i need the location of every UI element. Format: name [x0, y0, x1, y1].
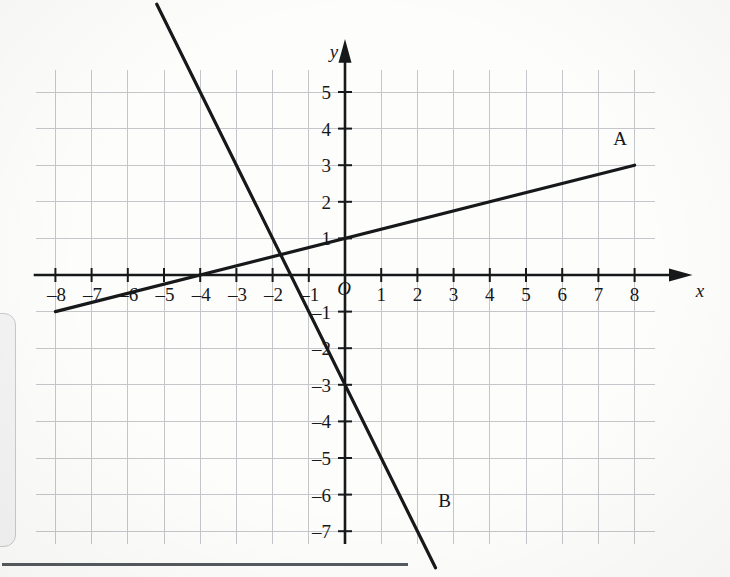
y-tick-label: –7: [311, 521, 331, 542]
x-tick-label: 3: [449, 284, 459, 305]
x-tick-label: 6: [557, 284, 567, 305]
cropped-ui-panel[interactable]: [0, 313, 16, 547]
x-tick-label: 2: [413, 284, 423, 305]
origin-label: O: [337, 278, 351, 299]
x-tick-label: –8: [46, 284, 66, 305]
graph-page: –8–7–6–5–4–3–2–112345678 54321–1–2–3–4–5…: [0, 0, 730, 577]
x-axis-label: x: [695, 280, 705, 301]
x-tick-label: 5: [521, 284, 531, 305]
coordinate-graph: –8–7–6–5–4–3–2–112345678 54321–1–2–3–4–5…: [0, 0, 730, 577]
y-tick-label: 4: [322, 119, 332, 140]
y-axis-arrowhead: [339, 39, 352, 63]
y-axis-label: y: [328, 41, 339, 62]
x-tick-label: –4: [191, 284, 212, 305]
y-tick-label: 2: [322, 192, 332, 213]
x-tick-label: 4: [485, 284, 495, 305]
y-tick-label: –6: [311, 485, 331, 506]
x-tick-label: –3: [227, 284, 247, 305]
x-tick-label: –2: [263, 284, 283, 305]
x-tick-label: 7: [594, 284, 604, 305]
y-tick-label: –3: [311, 375, 331, 396]
series-label-b: B: [438, 490, 451, 511]
bottom-divider: [2, 563, 408, 566]
y-tick-label: 1: [322, 228, 332, 249]
y-tick-label: 3: [322, 155, 332, 176]
y-tick-label: –4: [311, 411, 332, 432]
x-tick-label: 1: [376, 284, 386, 305]
x-tick-label: 8: [630, 284, 640, 305]
y-tick-label: –5: [311, 448, 331, 469]
x-axis-arrowhead: [669, 269, 693, 282]
series-label-a: A: [613, 128, 627, 149]
y-tick-label: 5: [322, 82, 332, 103]
y-tick-labels: 54321–1–2–3–4–5–6–7: [311, 82, 332, 542]
